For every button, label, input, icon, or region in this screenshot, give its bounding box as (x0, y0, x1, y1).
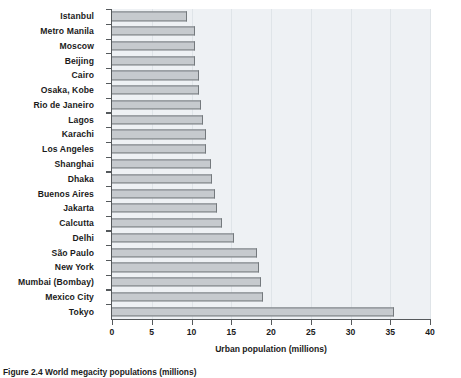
bar (112, 130, 206, 139)
bar (112, 56, 195, 65)
x-tick-5 (152, 320, 153, 325)
y-tick (106, 83, 111, 84)
x-tick-35 (390, 320, 391, 325)
y-tick (106, 98, 111, 99)
bar-row: Cairo (0, 68, 461, 83)
category-label: Tokyo (69, 307, 94, 317)
x-axis-title: Urban population (millions) (112, 344, 430, 354)
category-label: Cairo (72, 70, 94, 80)
y-tick (106, 142, 111, 143)
y-tick (106, 186, 111, 187)
bar-row: São Paulo (0, 245, 461, 260)
bar (112, 71, 199, 80)
x-tick-label-5: 5 (149, 327, 154, 337)
x-tick-label-15: 15 (226, 327, 236, 337)
category-label: Mumbai (Bombay) (18, 277, 94, 287)
bar (112, 263, 259, 272)
y-tick (106, 24, 111, 25)
x-tick-25 (311, 320, 312, 325)
x-tick-0 (112, 320, 113, 325)
bar-row: Los Angeles (0, 142, 461, 157)
x-tick-label-10: 10 (187, 327, 197, 337)
category-label: Delhi (72, 233, 94, 243)
y-tick (106, 216, 111, 217)
x-tick-label-20: 20 (266, 327, 276, 337)
bar-rows: IstanbulMetro ManilaMoscowBeijingCairoOs… (0, 9, 461, 319)
bar-row: Mumbai (Bombay) (0, 275, 461, 290)
category-label: Los Angeles (42, 144, 94, 154)
y-tick (106, 53, 111, 54)
y-tick (106, 171, 111, 172)
bar (112, 218, 222, 227)
y-tick (106, 260, 111, 261)
category-label: Karachi (62, 129, 94, 139)
bar (112, 307, 394, 316)
y-tick (106, 9, 111, 10)
bar-row: Mexico City (0, 289, 461, 304)
bar (112, 189, 215, 198)
category-label: Lagos (68, 115, 94, 125)
bar (112, 174, 212, 183)
bar-row: Shanghai (0, 157, 461, 172)
y-tick (106, 304, 111, 305)
bar-row: Tokyo (0, 304, 461, 319)
category-label: Moscow (59, 41, 94, 51)
bar (112, 115, 203, 124)
category-label: Shanghai (55, 159, 94, 169)
y-tick (106, 289, 111, 290)
bar-row: Jakarta (0, 201, 461, 216)
x-tick-label-35: 35 (385, 327, 395, 337)
bar (112, 41, 195, 50)
bar (112, 12, 187, 21)
bar-row: Karachi (0, 127, 461, 142)
x-tick-20 (271, 320, 272, 325)
bar (112, 27, 195, 36)
bar-row: Moscow (0, 39, 461, 54)
bar-row: Metro Manila (0, 24, 461, 39)
bar-row: Buenos Aires (0, 186, 461, 201)
x-tick-15 (231, 320, 232, 325)
category-label: Beijing (65, 56, 94, 66)
y-tick (106, 68, 111, 69)
y-tick (106, 112, 111, 113)
category-label: Istanbul (60, 11, 94, 21)
y-tick (106, 127, 111, 128)
bar (112, 204, 217, 213)
figure-caption: Figure 2.4 World megacity populations (m… (3, 367, 196, 377)
bar (112, 292, 263, 301)
bar-row: Osaka, Kobe (0, 83, 461, 98)
y-tick (106, 39, 111, 40)
category-label: São Paulo (52, 248, 94, 258)
bar-row: Lagos (0, 112, 461, 127)
y-tick (106, 275, 111, 276)
x-tick-label-40: 40 (425, 327, 435, 337)
x-tick-40 (430, 320, 431, 325)
category-label: Mexico City (45, 292, 94, 302)
bar-row: Istanbul (0, 9, 461, 24)
category-label: Rio de Janeiro (33, 100, 94, 110)
bar-row: Rio de Janeiro (0, 98, 461, 113)
y-tick (106, 230, 111, 231)
bar-row: Beijing (0, 53, 461, 68)
bar (112, 159, 211, 168)
category-label: Buenos Aires (38, 189, 94, 199)
category-label: Jakarta (63, 203, 94, 213)
y-tick (106, 157, 111, 158)
category-label: Dhaka (68, 174, 94, 184)
category-label: Calcutta (59, 218, 94, 228)
bar (112, 233, 234, 242)
y-tick (106, 201, 111, 202)
y-tick (106, 245, 111, 246)
bar-row: Calcutta (0, 216, 461, 231)
category-label: Metro Manila (40, 26, 94, 36)
bar (112, 100, 201, 109)
bar-row: Dhaka (0, 171, 461, 186)
bar (112, 277, 261, 286)
bar (112, 145, 206, 154)
x-tick-label-0: 0 (110, 327, 115, 337)
figure-container: IstanbulMetro ManilaMoscowBeijingCairoOs… (0, 0, 461, 378)
bar-row: Delhi (0, 230, 461, 245)
bar-row: New York (0, 260, 461, 275)
bar (112, 248, 257, 257)
x-tick-label-30: 30 (346, 327, 356, 337)
